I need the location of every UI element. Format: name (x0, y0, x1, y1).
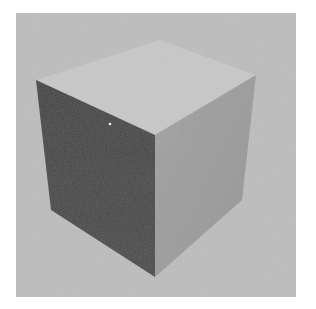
cube-render-canvas (0, 0, 316, 309)
cube-render (0, 0, 316, 309)
specular-speck (109, 123, 112, 126)
